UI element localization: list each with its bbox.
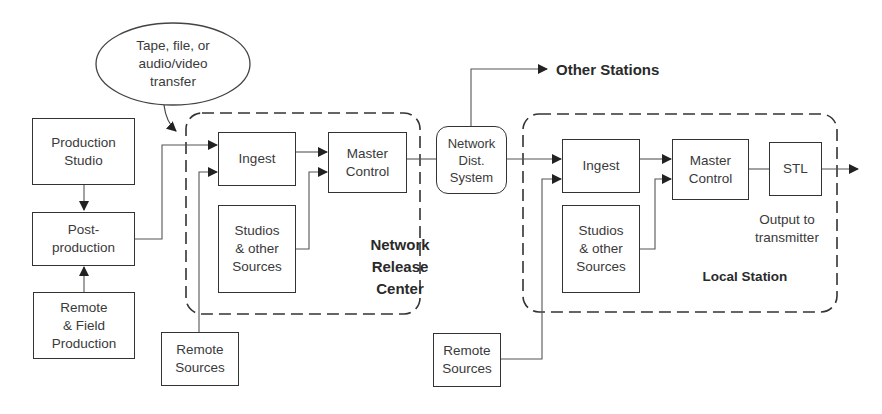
local-ingest-box[interactable]: Ingest (562, 139, 640, 193)
output-text: transmitter (755, 229, 819, 247)
remote-field-production-box[interactable]: Remote & Field Production (33, 292, 135, 359)
nrc-master-control-box[interactable]: Master Control (328, 132, 407, 193)
box-label: Master (690, 152, 731, 170)
local-remote-sources-box[interactable]: Remote Sources (433, 333, 501, 387)
transfer-note-line: transfer (150, 73, 196, 91)
box-label: Sources (232, 258, 282, 276)
output-text: Output to (759, 211, 815, 229)
box-label: & other (235, 240, 279, 258)
box-label: Remote (443, 342, 490, 360)
box-label: Sources (576, 258, 626, 276)
box-label: Master (347, 145, 388, 163)
box-label: Studios (578, 222, 623, 240)
region-label: Network (370, 234, 429, 256)
production-studio-box[interactable]: Production Studio (32, 118, 135, 185)
region-label: Local Station (703, 268, 788, 286)
region-label: Center (376, 278, 424, 300)
other-stations-label: Other Stations (556, 60, 686, 80)
box-label: System (450, 169, 493, 186)
box-label: & Field (63, 317, 105, 335)
local-master-control-box[interactable]: Master Control (672, 139, 749, 200)
box-label: Production (51, 134, 116, 152)
box-label: Ingest (583, 157, 620, 175)
transfer-note-line: audio/video (138, 55, 207, 73)
other-stations-text: Other Stations (556, 61, 659, 79)
box-label: Sources (442, 360, 492, 378)
remote-sources-box[interactable]: Remote Sources (161, 332, 239, 386)
local-station-label: Local Station (680, 267, 810, 287)
network-dist-system-box[interactable]: Network Dist. System (436, 126, 507, 194)
box-label: production (52, 239, 115, 257)
box-label: Remote (176, 341, 223, 359)
post-production-box[interactable]: Post- production (32, 212, 135, 266)
nrc-studios-box[interactable]: Studios & other Sources (218, 205, 296, 293)
transfer-note: Tape, file, or audio/video transfer (106, 36, 240, 92)
box-label: Studio (64, 152, 102, 170)
box-label: Sources (175, 359, 225, 377)
output-to-transmitter-label: Output to transmitter (744, 209, 830, 249)
box-label: Remote (60, 299, 107, 317)
region-label: Release (372, 256, 429, 278)
transfer-note-line: Tape, file, or (136, 37, 210, 55)
nrc-ingest-box[interactable]: Ingest (218, 132, 296, 186)
box-label: Control (689, 170, 733, 188)
stl-box[interactable]: STL (769, 142, 822, 196)
box-label: Post- (68, 221, 100, 239)
box-label: Control (346, 163, 390, 181)
box-label: & other (579, 240, 623, 258)
box-label: Studios (234, 222, 279, 240)
box-label: Dist. (459, 152, 485, 169)
box-label: Production (52, 335, 117, 353)
box-label: STL (783, 160, 808, 178)
local-studios-box[interactable]: Studios & other Sources (562, 205, 640, 293)
box-label: Ingest (239, 150, 276, 168)
box-label: Network (448, 135, 496, 152)
network-release-center-label: Network Release Center (325, 232, 475, 302)
